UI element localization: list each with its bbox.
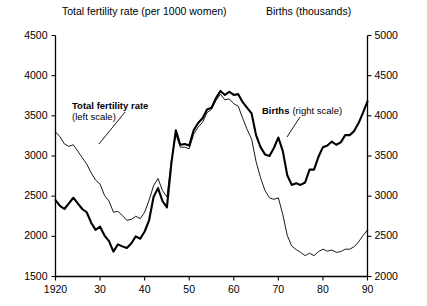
x-tick-label: 70: [261, 284, 295, 295]
x-tick-label: 30: [83, 284, 117, 295]
plot-canvas: [0, 0, 427, 306]
left-tick-label: 4000: [14, 70, 48, 81]
fertility-annotation-sub: (left scale): [72, 111, 116, 122]
left-tick-label: 3500: [14, 110, 48, 121]
fertility-annotation: Total fertility rate (left scale): [72, 100, 148, 122]
left-tick-label: 4500: [14, 30, 48, 41]
x-tick-label: 80: [306, 284, 340, 295]
right-tick-label: 2500: [375, 230, 409, 241]
births-annotation-sub: (right scale): [292, 105, 342, 116]
left-tick-label: 1500: [14, 271, 48, 282]
births-annotation: Births(right scale): [262, 105, 342, 116]
x-tick-label: 1920: [39, 284, 73, 295]
births-annotation-title: Births: [262, 105, 289, 116]
right-tick-label: 4500: [375, 70, 409, 81]
right-tick-label: 3500: [375, 150, 409, 161]
right-tick-label: 5000: [375, 30, 409, 41]
x-tick-label: 90: [351, 284, 385, 295]
fertility-births-chart: Total fertility rate (per 1000 women) Bi…: [0, 0, 427, 306]
axes-group: [52, 36, 372, 281]
left-tick-label: 2000: [14, 230, 48, 241]
fertility-annotation-title: Total fertility rate: [72, 100, 148, 111]
births-leader-line: [287, 117, 300, 137]
x-tick-label: 40: [128, 284, 162, 295]
right-tick-label: 2000: [375, 271, 409, 282]
x-tick-label: 60: [217, 284, 251, 295]
left-tick-label: 3000: [14, 150, 48, 161]
left-tick-label: 2500: [14, 190, 48, 201]
right-tick-label: 3000: [375, 190, 409, 201]
right-tick-label: 4000: [375, 110, 409, 121]
x-tick-label: 50: [172, 284, 206, 295]
